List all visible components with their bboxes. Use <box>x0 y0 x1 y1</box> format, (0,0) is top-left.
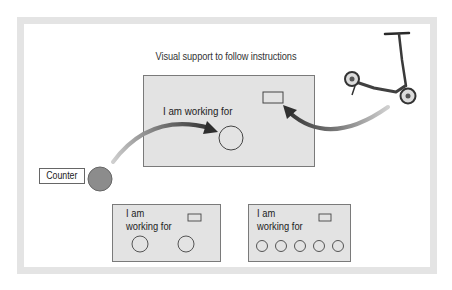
board-2-token-slot <box>333 241 344 252</box>
board-1-token-slot <box>178 236 194 252</box>
arrow-to-token-slot <box>113 121 218 162</box>
main-reward-slot <box>263 92 283 103</box>
board-2-token-slot <box>257 241 268 252</box>
board-1-token-slot <box>132 236 148 252</box>
board-2-reward-slot <box>319 214 331 221</box>
board-2-token-slot <box>276 241 287 252</box>
board-1-reward-slot <box>188 214 201 221</box>
arrow-to-reward-slot <box>283 105 388 129</box>
diagram-graphics <box>0 0 452 290</box>
board-2-token-slot <box>314 241 325 252</box>
main-token-slot <box>219 126 243 150</box>
board-2-token-slot <box>295 241 306 252</box>
scooter-icon <box>345 33 416 104</box>
counter-token <box>88 167 112 191</box>
